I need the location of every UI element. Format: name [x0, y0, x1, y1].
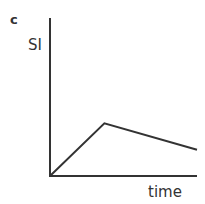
- chart-plot: [0, 0, 205, 204]
- series-line: [50, 123, 197, 176]
